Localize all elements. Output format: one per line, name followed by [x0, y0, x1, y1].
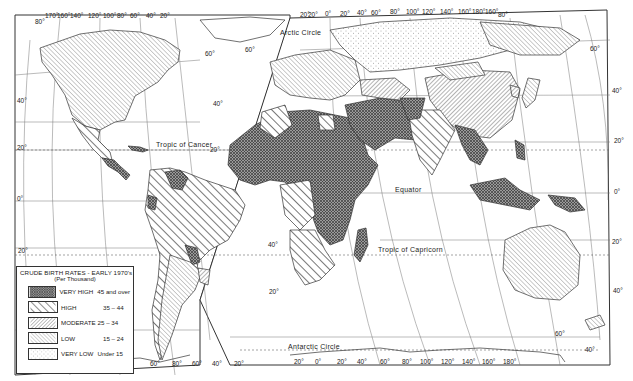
label-tropic-of-capricorn: Tropic of Capricorn — [378, 246, 443, 254]
svg-text:40°: 40° — [146, 12, 156, 19]
svg-text:60°: 60° — [205, 50, 215, 57]
svg-text:60°: 60° — [590, 45, 600, 52]
svg-text:0°: 0° — [325, 10, 332, 17]
label-antarctic-circle: Antarctic Circle — [288, 343, 340, 350]
very-high-swatch — [28, 286, 56, 298]
label-equator: Equator — [395, 186, 422, 194]
legend-label: VERY HIGH — [59, 288, 93, 295]
svg-text:20°: 20° — [294, 358, 304, 365]
svg-text:80°: 80° — [117, 12, 127, 19]
legend-title: CRUDE BIRTH RATES - EARLY 1970's — [20, 269, 130, 276]
svg-text:40°: 40° — [585, 346, 595, 353]
svg-text:20°: 20° — [337, 358, 347, 365]
svg-text:80°: 80° — [35, 18, 45, 25]
legend-range: 15 – 24 — [103, 335, 124, 342]
svg-text:40°: 40° — [268, 241, 278, 248]
low-swatch — [28, 332, 58, 344]
legend-range: 35 – 44 — [103, 304, 124, 311]
svg-text:80°: 80° — [498, 11, 508, 18]
svg-text:0°: 0° — [614, 188, 621, 195]
svg-text:180°: 180° — [503, 358, 517, 365]
svg-text:60°: 60° — [150, 360, 160, 367]
svg-text:80°: 80° — [402, 358, 412, 365]
svg-text:120°: 120° — [88, 12, 102, 19]
legend-item-high: HIGH 35 – 44 — [28, 300, 130, 316]
svg-text:160°: 160° — [485, 8, 499, 15]
svg-text:0°: 0° — [17, 195, 24, 202]
legend-item-low: LOW 15 – 24 — [28, 331, 130, 347]
svg-text:80°: 80° — [390, 8, 400, 15]
svg-text:0°: 0° — [315, 358, 322, 365]
region-egypt-high — [318, 115, 335, 130]
legend-item-very-high: VERY HIGH 45 and over — [28, 284, 130, 300]
label-tropic-of-cancer: Tropic of Cancer — [156, 141, 213, 149]
svg-text:100°: 100° — [103, 12, 117, 19]
svg-text:20°: 20° — [614, 137, 624, 144]
legend-range: Under 15 — [97, 350, 122, 357]
svg-text:40°: 40° — [357, 358, 367, 365]
svg-text:60°: 60° — [130, 12, 140, 19]
legend-label: LOW — [61, 335, 99, 342]
svg-text:60°: 60° — [380, 358, 390, 365]
svg-text:120°: 120° — [422, 8, 436, 15]
legend-subtitle: (Per Thousand) — [20, 276, 130, 282]
region-ecuador — [148, 195, 157, 210]
legend-label: MODERATE — [61, 319, 96, 326]
very-low-swatch — [28, 348, 58, 360]
svg-text:40°: 40° — [612, 87, 622, 94]
label-arctic-circle: Arctic Circle — [280, 29, 321, 36]
svg-text:20°: 20° — [340, 10, 350, 17]
svg-text:40°: 40° — [213, 100, 223, 107]
svg-text:60°: 60° — [245, 46, 255, 53]
svg-text:20°: 20° — [210, 146, 220, 153]
high-swatch — [28, 301, 58, 313]
svg-text:80°: 80° — [172, 360, 182, 367]
moderate-swatch — [28, 317, 58, 329]
svg-text:160°: 160° — [57, 12, 71, 19]
svg-text:160°: 160° — [458, 8, 472, 15]
svg-text:40°: 40° — [613, 287, 623, 294]
legend-label: VERY LOW — [61, 350, 93, 357]
legend-item-very-low: VERY LOW Under 15 — [28, 346, 130, 362]
svg-text:140°: 140° — [440, 8, 454, 15]
svg-text:120°: 120° — [441, 358, 455, 365]
svg-text:20°: 20° — [308, 11, 318, 18]
svg-text:140°: 140° — [462, 358, 476, 365]
svg-text:40°: 40° — [357, 9, 367, 16]
svg-text:60°: 60° — [555, 330, 565, 337]
svg-text:40°: 40° — [212, 360, 222, 367]
svg-text:100°: 100° — [420, 358, 434, 365]
svg-text:20°: 20° — [269, 288, 279, 295]
svg-text:160°: 160° — [482, 358, 496, 365]
svg-text:100°: 100° — [406, 8, 420, 15]
legend-range: 25 – 34 — [98, 319, 119, 326]
svg-text:40°: 40° — [17, 97, 27, 104]
svg-text:60°: 60° — [192, 360, 202, 367]
legend-label: HIGH — [61, 304, 99, 311]
svg-text:60°: 60° — [371, 9, 381, 16]
svg-text:20°: 20° — [17, 144, 27, 151]
legend: CRUDE BIRTH RATES - EARLY 1970's (Per Th… — [16, 266, 134, 374]
svg-text:140°: 140° — [70, 12, 84, 19]
svg-text:20°: 20° — [612, 238, 622, 245]
svg-text:180°: 180° — [472, 8, 486, 15]
legend-range: 45 and over — [97, 288, 130, 295]
svg-text:20°: 20° — [234, 360, 244, 367]
svg-text:20°: 20° — [160, 12, 170, 19]
legend-item-moderate: MODERATE 25 – 34 — [28, 315, 130, 331]
svg-text:20°: 20° — [18, 247, 28, 254]
